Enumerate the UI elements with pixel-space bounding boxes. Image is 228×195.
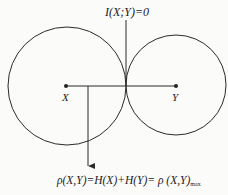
mutual-information-label: I(X;Y)=0 [104,5,149,19]
center-dot-y [174,84,178,88]
formula-subscript: max [190,181,200,187]
node-x-label: X [61,91,70,103]
venn-diagram: I(X;Y)=0 X Y ρ(X,Y)=H(X)+H(Y)= ρ (X,Y)ma… [0,0,228,195]
center-dot-x [64,84,68,88]
formula-main: ρ(X,Y)=H(X)+H(Y)= ρ (X,Y) [56,174,190,187]
node-y-label: Y [172,91,180,103]
formula-label: ρ(X,Y)=H(X)+H(Y)= ρ (X,Y)max [56,174,201,187]
